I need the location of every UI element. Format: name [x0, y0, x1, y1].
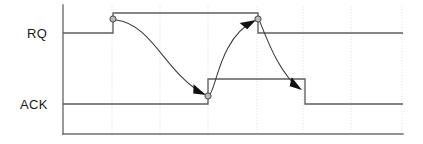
event-dot-rq-falling: [255, 16, 261, 22]
event-dot-rq-rising: [110, 16, 116, 22]
waveform-canvas: RQ ACK: [0, 0, 423, 144]
signal-label-rq: RQ: [27, 26, 47, 41]
gridlines-group: [112, 6, 402, 133]
waveform-ack: [63, 79, 403, 104]
causal-curve-ack-up-to-rq-down: [209, 21, 254, 95]
timing-diagram-root: RQ ACK: [0, 0, 423, 144]
signal-label-ack: ACK: [20, 97, 48, 112]
axes-group: [63, 5, 403, 134]
event-dot-ack-rising: [205, 93, 211, 99]
